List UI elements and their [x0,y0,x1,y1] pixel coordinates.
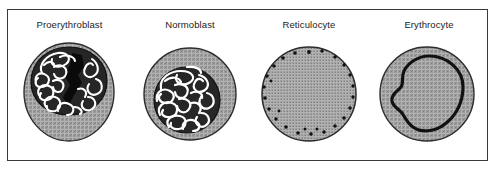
cell-panel-proerythroblast: Proerythroblast [8,10,131,162]
cell-art-erythrocyte [369,37,489,149]
cell-art-proerythroblast [8,37,131,149]
cell-panel-reticulocyte: Reticulocyte [249,10,369,162]
cell-art-normoblast [131,37,249,149]
cell-art-reticulocyte [249,37,369,149]
cell-panel-erythrocyte: Erythrocyte [369,10,489,162]
cell-label-normoblast: Normoblast [131,19,249,30]
cytoplasm-reticulocyte [262,47,356,141]
cell-label-reticulocyte: Reticulocyte [249,19,369,30]
cell-panel-normoblast: Normoblast [131,10,249,162]
cell-label-proerythroblast: Proerythroblast [8,19,131,30]
cell-maturation-figure: Proerythroblast [0,0,499,173]
cell-label-erythrocyte: Erythrocyte [369,19,489,30]
figure-frame: Proerythroblast [7,9,488,161]
